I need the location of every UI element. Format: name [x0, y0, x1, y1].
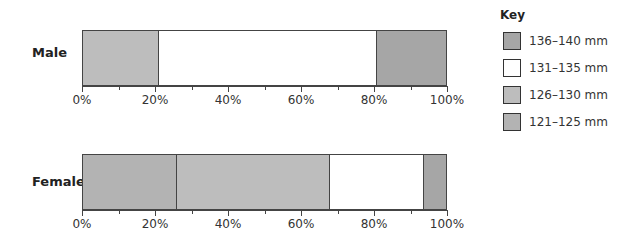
bar-female — [82, 154, 447, 210]
tick-label: 40% — [215, 217, 242, 231]
tick-mark — [338, 86, 339, 90]
legend-swatch — [503, 32, 521, 50]
tick-label: 80% — [361, 93, 388, 107]
legend-label: 121–125 mm — [529, 115, 608, 129]
tick-mark — [228, 210, 229, 216]
tick-mark — [82, 210, 83, 216]
tick-mark — [374, 86, 375, 92]
tick-label: 80% — [361, 217, 388, 231]
tick-mark — [119, 86, 120, 90]
legend-swatch — [503, 113, 521, 131]
row-label-male: Male — [32, 45, 67, 60]
bar-segment — [330, 155, 424, 209]
legend-item: 126–130 mm — [503, 86, 608, 104]
tick-mark — [228, 86, 229, 92]
tick-mark — [192, 86, 193, 90]
tick-mark — [155, 210, 156, 216]
tick-label: 40% — [215, 93, 242, 107]
bar-male — [82, 30, 447, 86]
bar-segment — [424, 155, 446, 209]
tick-label: 100% — [430, 93, 464, 107]
tick-label: 20% — [142, 217, 169, 231]
bar-segment — [159, 31, 377, 85]
tick-label: 0% — [72, 93, 91, 107]
tick-mark — [192, 210, 193, 214]
tick-mark — [411, 210, 412, 214]
bar-segment — [177, 155, 329, 209]
tick-mark — [265, 86, 266, 90]
tick-label: 60% — [288, 217, 315, 231]
legend-item: 131–135 mm — [503, 59, 608, 77]
bar-segment — [377, 31, 446, 85]
tick-label: 0% — [72, 217, 91, 231]
tick-mark — [411, 86, 412, 90]
tick-mark — [119, 210, 120, 214]
tick-mark — [82, 86, 83, 92]
legend-label: 131–135 mm — [529, 61, 608, 75]
tick-mark — [155, 86, 156, 92]
legend-item: 136–140 mm — [503, 32, 608, 50]
tick-mark — [338, 210, 339, 214]
tick-mark — [265, 210, 266, 214]
bar-segment — [83, 155, 177, 209]
tick-label: 60% — [288, 93, 315, 107]
legend-swatch — [503, 59, 521, 77]
tick-label: 100% — [430, 217, 464, 231]
row-label-female: Female — [32, 174, 85, 189]
legend-label: 126–130 mm — [529, 88, 608, 102]
tick-label: 20% — [142, 93, 169, 107]
legend-item: 121–125 mm — [503, 113, 608, 131]
legend-title: Key — [500, 8, 525, 22]
tick-mark — [301, 86, 302, 92]
legend-swatch — [503, 86, 521, 104]
tick-mark — [301, 210, 302, 216]
tick-mark — [374, 210, 375, 216]
legend-label: 136–140 mm — [529, 34, 608, 48]
tick-mark — [447, 86, 448, 92]
bar-segment — [83, 31, 159, 85]
tick-mark — [447, 210, 448, 216]
